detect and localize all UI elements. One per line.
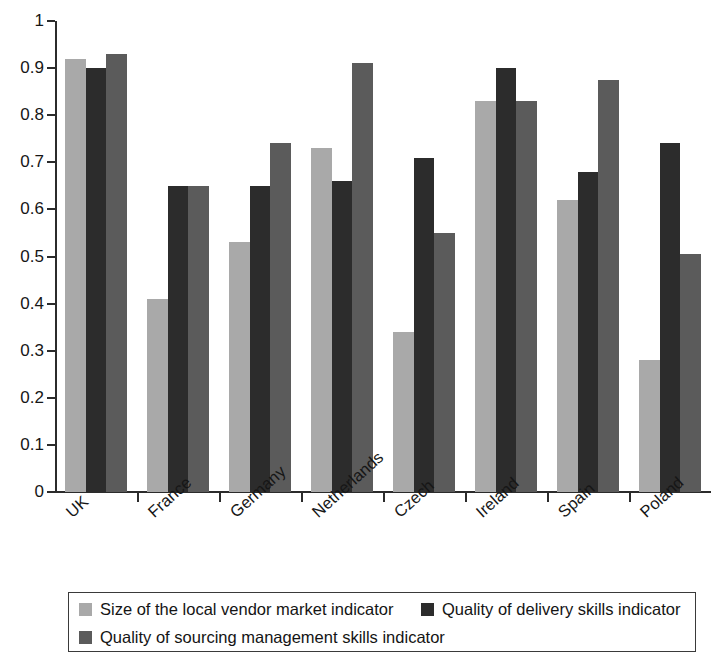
bar — [680, 254, 701, 492]
bar — [188, 186, 209, 492]
bar — [475, 101, 496, 492]
x-axis-tick — [301, 493, 303, 502]
bar-group — [301, 21, 383, 492]
bar — [332, 181, 353, 492]
y-axis-tick-label: 1 — [0, 12, 44, 29]
x-axis-tick — [547, 493, 549, 502]
bar — [65, 59, 86, 492]
y-axis-tick — [47, 491, 55, 493]
y-axis-tick — [47, 303, 55, 305]
bar — [660, 143, 681, 492]
y-axis-tick — [47, 256, 55, 258]
y-axis-tick-label: 0.3 — [0, 342, 44, 359]
y-axis-tick-label: 0.1 — [0, 436, 44, 453]
bar — [516, 101, 537, 492]
legend-entry: Quality of sourcing management skills in… — [79, 624, 445, 650]
y-axis-tick — [47, 20, 55, 22]
bar-group — [219, 21, 301, 492]
legend-row: Quality of sourcing management skills in… — [69, 624, 695, 650]
legend-entry: Quality of delivery skills indicator — [421, 596, 680, 622]
bar — [86, 68, 107, 492]
y-axis-tick-label: 0.4 — [0, 295, 44, 312]
bar — [106, 54, 127, 492]
x-axis-tick — [383, 493, 385, 502]
y-axis-tick — [47, 114, 55, 116]
y-axis-tick — [47, 444, 55, 446]
bar-group — [137, 21, 219, 492]
legend-swatch-icon — [79, 631, 92, 644]
x-axis-tick — [137, 493, 139, 502]
bar — [598, 80, 619, 492]
bar — [496, 68, 517, 492]
y-axis-tick-label: 0 — [0, 483, 44, 500]
y-axis-tick-label: 0.9 — [0, 59, 44, 76]
y-axis-tick — [47, 397, 55, 399]
y-axis-tick-label: 0.6 — [0, 200, 44, 217]
y-axis-tick-label: 0.7 — [0, 153, 44, 170]
y-axis-tick — [47, 208, 55, 210]
x-axis-tick — [465, 493, 467, 502]
legend-entry: Size of the local vendor market indicato… — [79, 596, 393, 622]
bar-group — [629, 21, 711, 492]
bar — [434, 233, 455, 492]
bar-group — [55, 21, 137, 492]
bar-group — [465, 21, 547, 492]
bar-group — [383, 21, 465, 492]
y-axis-tick-label: 0.5 — [0, 248, 44, 265]
bar-group — [547, 21, 629, 492]
bar — [147, 299, 168, 492]
legend-row: Size of the local vendor market indicato… — [69, 596, 695, 622]
y-axis-tick — [47, 161, 55, 163]
chart-legend: Size of the local vendor market indicato… — [68, 592, 696, 652]
legend-swatch-icon — [421, 603, 434, 616]
bar — [250, 186, 271, 492]
bar — [311, 148, 332, 492]
y-axis-tick-label: 0.8 — [0, 106, 44, 123]
bar — [229, 242, 250, 492]
bar — [270, 143, 291, 492]
y-axis-tick — [47, 67, 55, 69]
bar — [578, 172, 599, 492]
bar — [557, 200, 578, 492]
x-axis-tick — [629, 493, 631, 502]
x-axis-tick-label: UK — [63, 493, 91, 521]
bar — [393, 332, 414, 492]
bar — [168, 186, 189, 492]
y-axis-tick — [47, 350, 55, 352]
y-axis-tick-label: 0.2 — [0, 389, 44, 406]
legend-label: Quality of sourcing management skills in… — [100, 628, 445, 646]
x-axis-tick — [219, 493, 221, 502]
legend-label: Quality of delivery skills indicator — [442, 600, 680, 618]
bar — [414, 158, 435, 492]
legend-swatch-icon — [79, 603, 92, 616]
plot-area — [55, 21, 710, 492]
legend-label: Size of the local vendor market indicato… — [100, 600, 393, 618]
bar — [352, 63, 373, 492]
bar — [639, 360, 660, 492]
